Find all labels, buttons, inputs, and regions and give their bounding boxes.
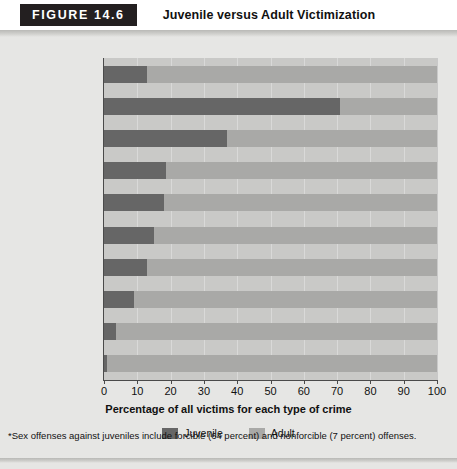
bar-segment-adult: [164, 194, 437, 211]
y-axis-line: [103, 58, 104, 381]
bar-segment-juvenile: [104, 66, 147, 83]
x-axis-tick: [104, 380, 105, 384]
figure-number-badge: FIGURE 14.6: [20, 4, 137, 26]
x-axis-tick-label: 30: [198, 385, 210, 397]
x-axis-tick-label: 90: [398, 385, 410, 397]
bar-row: [104, 66, 437, 83]
x-axis-tick-label: 80: [364, 385, 376, 397]
bar-segment-juvenile: [104, 98, 340, 115]
x-axis-tick-label: 50: [264, 385, 276, 397]
bar-row: [104, 355, 437, 372]
bar-row: [104, 323, 437, 340]
x-axis-tick: [271, 380, 272, 384]
x-axis-tick-label: 20: [164, 385, 176, 397]
bar-segment-adult: [227, 130, 437, 147]
bar-segment-adult: [147, 66, 437, 83]
bar-segment-juvenile: [104, 323, 116, 340]
header-divider: [0, 30, 457, 37]
bar-segment-juvenile: [104, 259, 147, 276]
x-axis-tick: [337, 380, 338, 384]
bar-rows: [104, 58, 437, 380]
x-axis-tick-label: 40: [231, 385, 243, 397]
x-axis-tick: [171, 380, 172, 384]
bar-segment-adult: [166, 162, 437, 179]
bar-segment-adult: [154, 227, 437, 244]
figure-footnote: *Sex offenses against juveniles include …: [8, 430, 448, 441]
bar-row: [104, 227, 437, 244]
gridline: [437, 58, 438, 380]
x-axis-tick-label: 70: [331, 385, 343, 397]
bar-row: [104, 291, 437, 308]
x-axis-tick: [404, 380, 405, 384]
figure-header: FIGURE 14.6 Juvenile versus Adult Victim…: [0, 0, 457, 30]
bar-segment-juvenile: [104, 130, 227, 147]
bar-segment-juvenile: [104, 227, 154, 244]
x-axis-tick-label: 0: [101, 385, 107, 397]
bar-segment-adult: [340, 98, 437, 115]
x-axis-tick: [237, 380, 238, 384]
bar-row: [104, 130, 437, 147]
plot-area: [104, 58, 438, 380]
bar-row: [104, 194, 437, 211]
x-axis-tick-label: 10: [131, 385, 143, 397]
figure-page: FIGURE 14.6 Juvenile versus Adult Victim…: [0, 0, 457, 469]
x-axis-tick: [370, 380, 371, 384]
bottom-divider: [0, 458, 457, 463]
bar-segment-adult: [147, 259, 437, 276]
bar-segment-adult: [107, 355, 437, 372]
figure-title: Juvenile versus Adult Victimization: [163, 8, 376, 22]
x-axis-tick: [204, 380, 205, 384]
bar-segment-adult: [134, 291, 437, 308]
bar-row: [104, 162, 437, 179]
bar-row: [104, 98, 437, 115]
x-axis-tick-label: 60: [298, 385, 310, 397]
x-axis-tick: [304, 380, 305, 384]
chart-container: All crimesSex offenses*KidnappingAggrava…: [0, 37, 457, 420]
bar-segment-juvenile: [104, 162, 166, 179]
x-axis-title: Percentage of all victims for each type …: [0, 403, 457, 415]
bar-segment-adult: [116, 323, 437, 340]
bar-segment-juvenile: [104, 194, 164, 211]
x-axis-tick: [437, 380, 438, 384]
bar-segment-juvenile: [104, 291, 134, 308]
x-axis-tick-label: 100: [428, 385, 446, 397]
x-axis-tick: [137, 380, 138, 384]
bar-row: [104, 259, 437, 276]
